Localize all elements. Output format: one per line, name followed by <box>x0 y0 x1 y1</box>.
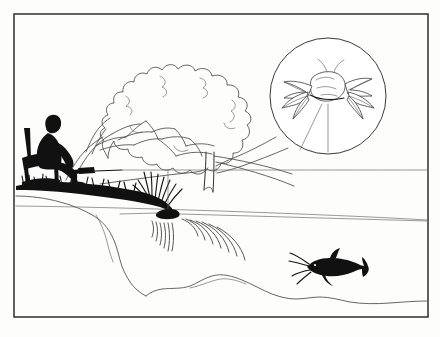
bait-impact <box>120 209 427 260</box>
near-water-edge-echo <box>190 279 246 288</box>
near-water-edge <box>146 275 427 304</box>
angler-figure <box>22 115 86 187</box>
tree-branches <box>66 118 294 192</box>
bait-silhouette <box>156 209 180 219</box>
ripples-left <box>152 221 174 251</box>
tree-canopy <box>100 65 251 174</box>
line-art-drawing <box>0 0 440 337</box>
illustration-canvas <box>0 0 440 337</box>
catfish-silhouette <box>289 248 369 286</box>
ripples-right <box>182 219 245 260</box>
